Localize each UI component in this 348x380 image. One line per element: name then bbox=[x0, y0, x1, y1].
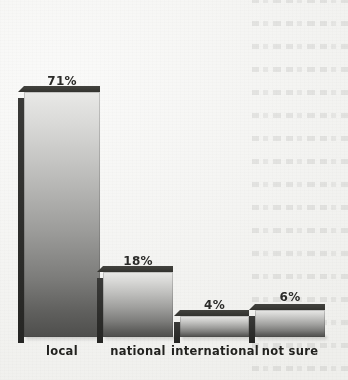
bar-not-sure bbox=[255, 310, 325, 337]
bar-value-label-national: 18% bbox=[103, 254, 173, 268]
bar-front-face bbox=[255, 310, 325, 337]
bar-front-face bbox=[103, 272, 173, 337]
bar-chart-figure: 71% local 18% national 4% international … bbox=[0, 0, 348, 380]
category-label-local: local bbox=[18, 344, 106, 358]
bar-value-label-international: 4% bbox=[180, 298, 249, 312]
bar-national bbox=[103, 272, 173, 337]
category-label-international: international bbox=[168, 344, 262, 358]
category-label-national: national bbox=[97, 344, 179, 358]
category-label-not-sure: not sure bbox=[250, 344, 330, 358]
plot-area: 71% local 18% national 4% international … bbox=[0, 0, 348, 380]
bar-value-label-local: 71% bbox=[24, 74, 100, 88]
bar-international bbox=[180, 316, 249, 337]
bar-front-face bbox=[24, 92, 100, 337]
bar-front-face bbox=[180, 316, 249, 337]
bar-value-label-not-sure: 6% bbox=[255, 290, 325, 304]
bar-local bbox=[24, 92, 100, 337]
